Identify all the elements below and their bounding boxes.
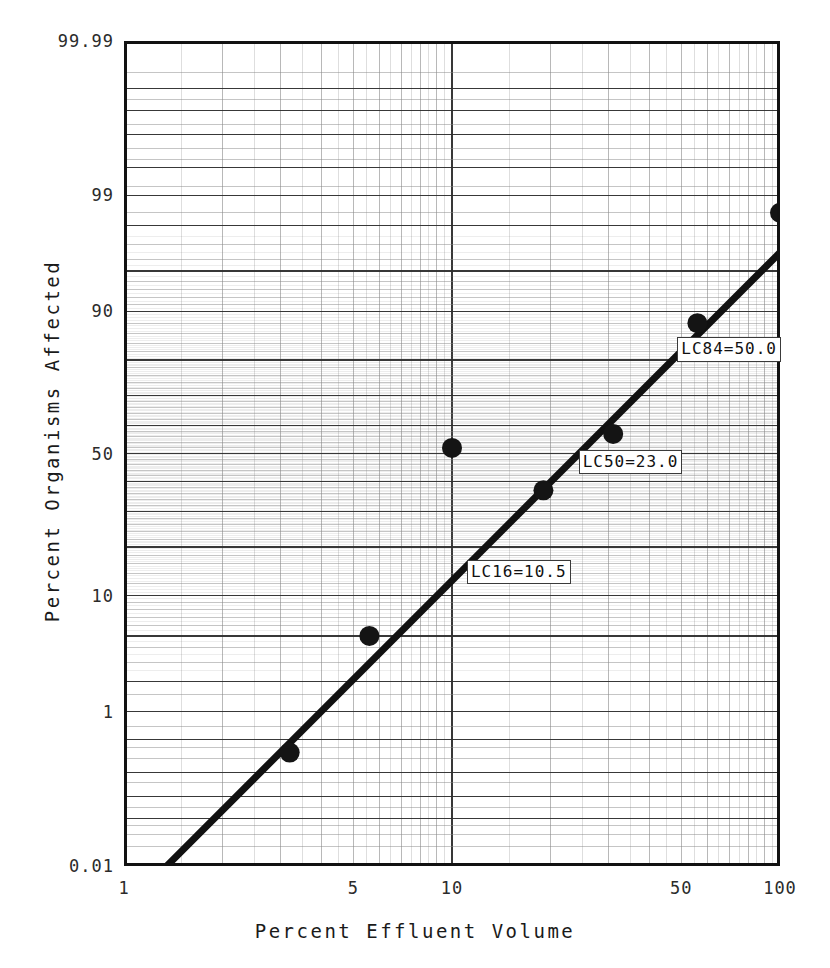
y-axis-tick-label: 50 xyxy=(92,444,114,464)
probit-chart: 99.999990501010.01 LC16=10.5LC50=23.0LC8… xyxy=(0,0,830,968)
y-axis-tick-label: 10 xyxy=(92,586,114,606)
data-point xyxy=(533,480,553,500)
x-axis-tick-label: 100 xyxy=(763,878,797,898)
data-point xyxy=(770,203,777,223)
y-axis-tick-label: 90 xyxy=(92,301,114,321)
x-axis-title: Percent Effluent Volume xyxy=(0,920,830,942)
x-axis-tick-labels: 151050100 xyxy=(0,878,830,908)
data-point xyxy=(442,438,462,458)
annotation-lc16: LC16=10.5 xyxy=(467,560,571,584)
y-axis-title: Percent Organisms Affected xyxy=(41,131,63,751)
data-point xyxy=(687,313,707,333)
x-axis-tick-label: 5 xyxy=(348,878,359,898)
data-point xyxy=(359,626,379,646)
y-axis-tick-label: 99 xyxy=(92,185,114,205)
y-axis-tick-label: 1 xyxy=(103,702,114,722)
y-axis-tick-label: 0.01 xyxy=(69,856,114,876)
x-axis-tick-label: 10 xyxy=(441,878,463,898)
annotation-lc84: LC84=50.0 xyxy=(677,337,781,361)
x-axis-tick-label: 50 xyxy=(670,878,692,898)
annotation-lc50: LC50=23.0 xyxy=(579,450,683,474)
y-axis-tick-label: 99.99 xyxy=(58,31,114,51)
data-point xyxy=(603,424,623,444)
x-axis-tick-label: 1 xyxy=(118,878,129,898)
data-point xyxy=(280,743,300,763)
